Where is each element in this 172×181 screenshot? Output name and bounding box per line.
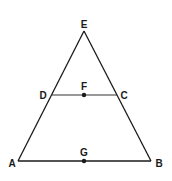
label-b: B [155, 158, 162, 169]
triangle-diagram: E D F C A G B [0, 0, 172, 181]
label-c: C [120, 90, 127, 101]
point-g-dot [82, 159, 86, 163]
label-g: G [80, 147, 88, 158]
label-d: D [39, 90, 46, 101]
label-e: E [81, 19, 88, 30]
segment-ea [18, 31, 84, 161]
point-f-dot [82, 93, 86, 97]
segment-eb [84, 31, 151, 161]
label-a: A [8, 158, 15, 169]
label-f: F [81, 81, 87, 92]
